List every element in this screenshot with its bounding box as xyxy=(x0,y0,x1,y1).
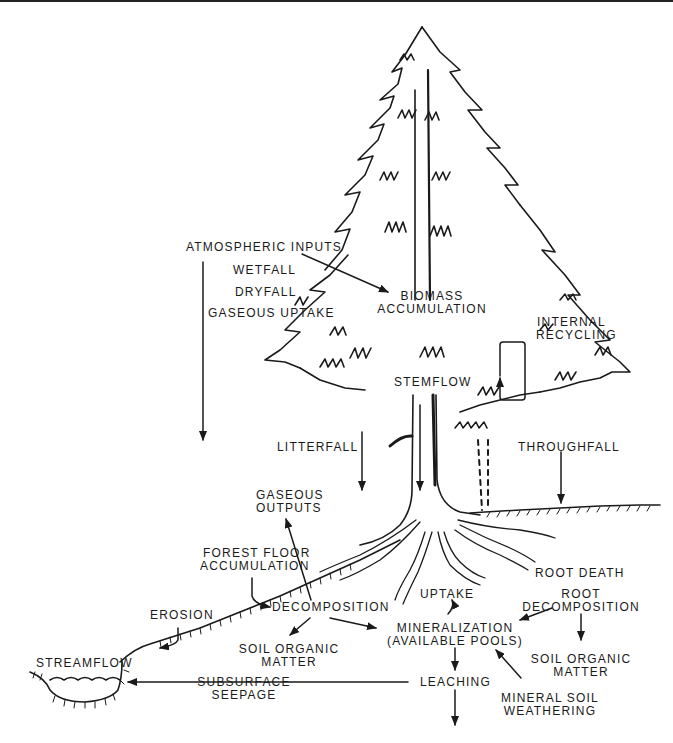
label-root: ROOT xyxy=(561,587,600,601)
label-available-pools: (AVAILABLE POOLS) xyxy=(387,634,523,648)
label-matter-left: MATTER xyxy=(261,655,317,669)
label-seepage: SEEPAGE xyxy=(212,688,277,702)
label-biomass: BIOMASS xyxy=(400,289,463,303)
label-root-decomposition: DECOMPOSITION xyxy=(522,600,640,614)
label-soil-organic-left: SOIL ORGANIC xyxy=(239,642,340,656)
label-outputs: OUTPUTS xyxy=(256,501,322,515)
nutrient-cycle-diagram xyxy=(0,0,673,743)
throughfall-drips xyxy=(478,440,488,510)
label-atmospheric-inputs: ATMOSPHERIC INPUTS xyxy=(186,240,342,254)
label-dryfall: DRYFALL xyxy=(235,285,297,299)
label-weathering: WEATHERING xyxy=(504,704,596,718)
label-litterfall: LITTERFALL xyxy=(277,440,358,454)
label-mineral-soil: MINERAL SOIL xyxy=(501,691,599,705)
label-matter-right: MATTER xyxy=(553,665,609,679)
label-erosion: EROSION xyxy=(150,608,214,622)
label-gaseous-uptake: GASEOUS UPTAKE xyxy=(208,306,335,320)
label-soil-organic-right: SOIL ORGANIC xyxy=(531,652,632,666)
label-root-death: ROOT DEATH xyxy=(535,566,625,580)
label-forest-floor-accumulation: ACCUMULATION xyxy=(200,559,310,573)
label-mineralization: MINERALIZATION xyxy=(397,621,514,635)
label-forest-floor: FOREST FLOOR xyxy=(203,546,311,560)
label-wetfall: WETFALL xyxy=(233,263,296,277)
label-throughfall: THROUGHFALL xyxy=(518,440,620,454)
label-uptake: UPTAKE xyxy=(420,587,474,601)
label-decomposition: DECOMPOSITION xyxy=(272,600,390,614)
label-leaching: LEACHING xyxy=(420,675,491,689)
label-recycling: RECYCLING xyxy=(536,328,617,342)
flow-arrows xyxy=(128,254,581,725)
label-streamflow: STREAMFLOW xyxy=(36,656,133,670)
tree-icon xyxy=(265,27,630,545)
label-gaseous: GASEOUS xyxy=(256,488,324,502)
label-subsurface: SUBSURFACE xyxy=(197,675,290,689)
label-internal: INTERNAL xyxy=(537,315,606,329)
label-stemflow: STEMFLOW xyxy=(394,375,472,389)
label-biomass-accumulation: ACCUMULATION xyxy=(377,302,487,316)
